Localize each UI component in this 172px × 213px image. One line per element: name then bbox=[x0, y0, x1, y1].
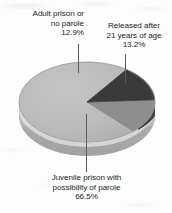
pie-label-released-percent: 13.2% bbox=[96, 40, 172, 50]
pie-label-adult-line1: Adult prison or bbox=[0, 9, 84, 19]
pie-label-released-after-21: Released after 21 years of age 13.2% bbox=[96, 21, 172, 50]
pie-label-adult-line2: no parole bbox=[0, 19, 84, 29]
pie-label-juvenile-line1: Juvenile prison with bbox=[24, 173, 149, 183]
leader-line-adult-prison bbox=[78, 44, 79, 73]
pie-label-released-line2: 21 years of age bbox=[96, 31, 172, 41]
pie-label-adult-prison-no-parole: Adult prison or no parole 12.9% bbox=[0, 9, 84, 38]
leader-line-juvenile-prison bbox=[86, 114, 87, 172]
pie-label-juvenile-prison-parole: Juvenile prison with possibility of paro… bbox=[24, 173, 149, 202]
leader-line-released-after-21 bbox=[125, 54, 126, 83]
pie-label-adult-percent: 12.9% bbox=[0, 28, 84, 38]
pie-label-released-line1: Released after bbox=[96, 21, 172, 31]
pie-chart-figure: Adult prison or no parole 12.9% Released… bbox=[0, 0, 172, 213]
pie-label-juvenile-line2: possibility of parole bbox=[24, 183, 149, 193]
pie-label-juvenile-percent: 66.5% bbox=[24, 192, 149, 202]
